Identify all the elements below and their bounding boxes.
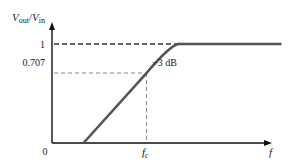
response-curve-group — [84, 44, 282, 143]
origin-label: 0 — [43, 146, 48, 157]
y-axis-label: Vout/Vin — [12, 11, 45, 25]
y-axis-arrow-icon — [49, 22, 55, 30]
x-tick-label-fc: fc — [142, 146, 149, 160]
annotation-minus-3db: −3 dB — [152, 57, 177, 68]
x-axis-label: f — [269, 146, 274, 158]
high-pass-response-chart: Vout/Vin 1 0.707 0 fc f −3 dB — [0, 0, 293, 166]
response-curve — [84, 44, 282, 143]
axes — [49, 22, 272, 146]
y-tick-label-0707: 0.707 — [23, 57, 46, 68]
y-tick-label-1: 1 — [40, 39, 45, 50]
